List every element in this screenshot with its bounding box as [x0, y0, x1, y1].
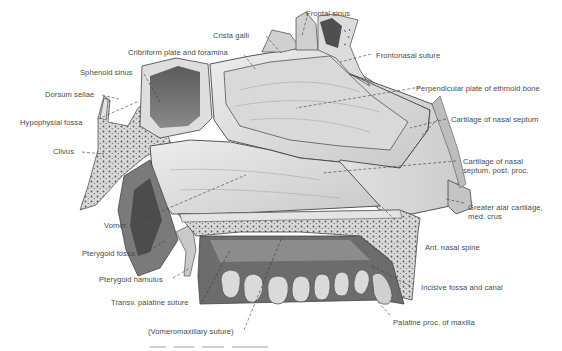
- label-perpendicular-plate: Perpendicular plate of ethmoid bone: [416, 84, 540, 93]
- nasal-septum-illustration: [0, 0, 562, 351]
- label-transv-palatine-suture: Transv. palatine suture: [111, 298, 189, 307]
- label-cartilage-septum-post-line1: Cartilage of nasal: [463, 157, 523, 166]
- label-sphenoid-sinus: Sphenoid sinus: [80, 68, 133, 77]
- label-palatine-proc: Palatine proc. of maxilla: [393, 318, 475, 327]
- anatomy-figure: Frontal sinus Crista galli Cribriform pl…: [0, 0, 562, 351]
- label-cribriform-plate: Cribriform plate and foramina: [128, 48, 228, 57]
- label-clivus: Clivus: [53, 147, 74, 156]
- maxilla-teeth: [198, 236, 404, 304]
- label-greater-alar-line1: Greater alar cartilage,: [468, 203, 543, 212]
- label-pterygoid-fossa: Pterygoid fossa: [82, 249, 135, 258]
- label-hypophysial-fossa: Hypophysial fossa: [20, 118, 82, 127]
- sphenoid-sinus: [140, 58, 212, 138]
- label-incisive-fossa: Incisive fossa and canal: [421, 283, 503, 292]
- label-vomeromaxillary-suture: (Vomeromaxillary suture): [148, 327, 234, 336]
- label-cartilage-nasal-septum: Cartilage of nasal septum: [451, 115, 538, 124]
- label-cartilage-septum-post-line2: septum, post. proc.: [463, 166, 529, 175]
- label-crista-galli: Crista galli: [213, 31, 249, 40]
- label-dorsum-sellae: Dorsum sellae: [45, 90, 94, 99]
- label-greater-alar-line2: med. crus: [468, 212, 502, 221]
- label-frontal-sinus: Frontal sinus: [306, 9, 350, 18]
- label-pterygoid-hamulus: Pterygoid hamulus: [99, 275, 163, 284]
- label-frontonasal-suture: Frontonasal suture: [376, 51, 440, 60]
- label-vomer: Vomer: [104, 221, 126, 230]
- figure-caption-cutoff: [150, 346, 280, 351]
- label-ant-nasal-spine: Ant. nasal spine: [425, 243, 480, 252]
